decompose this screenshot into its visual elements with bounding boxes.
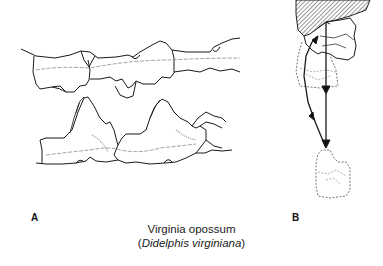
caption-common-name: Virginia opossum xyxy=(0,222,383,236)
caption-close-paren: ) xyxy=(241,237,245,249)
caption-scientific-name: Didelphis virginiana xyxy=(142,237,242,249)
caption-scientific-line: (Didelphis virginiana) xyxy=(0,236,383,250)
hatched-bone xyxy=(296,0,370,36)
occlusion-diagram xyxy=(296,0,370,198)
upper-tooth-row xyxy=(21,38,240,98)
lower-tooth-row xyxy=(36,97,232,164)
